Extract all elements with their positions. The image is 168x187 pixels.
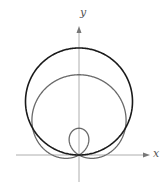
y-axis-label: y [80,6,86,19]
x-axis-arrow-icon [143,153,150,158]
x-axis-label: x [153,147,159,160]
y-axis [77,26,82,182]
polar-graph [0,0,168,187]
y-axis-arrow-icon [77,26,82,33]
